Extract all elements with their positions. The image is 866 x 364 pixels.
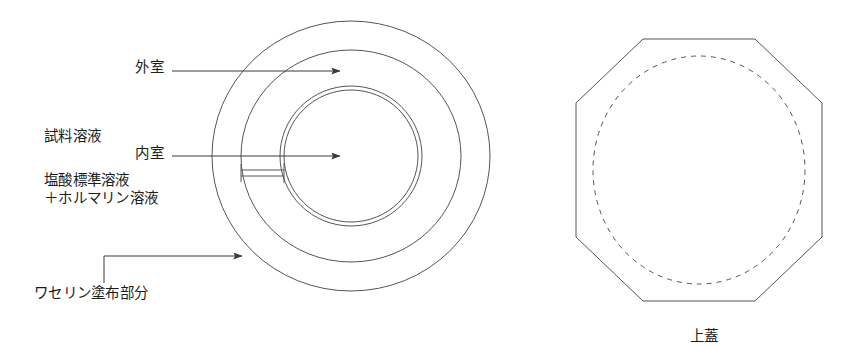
inner-outer-connector-bridge <box>241 163 284 183</box>
label-outer-chamber: 外室 <box>54 57 164 78</box>
leader-vaseline <box>104 256 242 283</box>
right-view-group <box>576 39 822 301</box>
label-hcl-standard-solution: 塩酸標準溶液 <box>44 170 234 191</box>
label-vaseline-coating: ワセリン塗布部分 <box>34 283 234 304</box>
label-sample-solution-line2: ＋ホルマリン溶液 <box>44 188 234 209</box>
label-inner-chamber: 内室 <box>54 143 164 164</box>
lid-dashed-circle <box>593 56 805 284</box>
octagon-lid-outline <box>576 39 822 301</box>
label-sample-solution: 試料溶液 ＋ホルマリン溶液 <box>44 85 234 250</box>
label-lid-caption: 上蓋 <box>644 326 764 347</box>
figure-container: 外室 試料溶液 ＋ホルマリン溶液 内室 塩酸標準溶液 ワセリン塗布部分 上蓋 <box>0 0 866 364</box>
